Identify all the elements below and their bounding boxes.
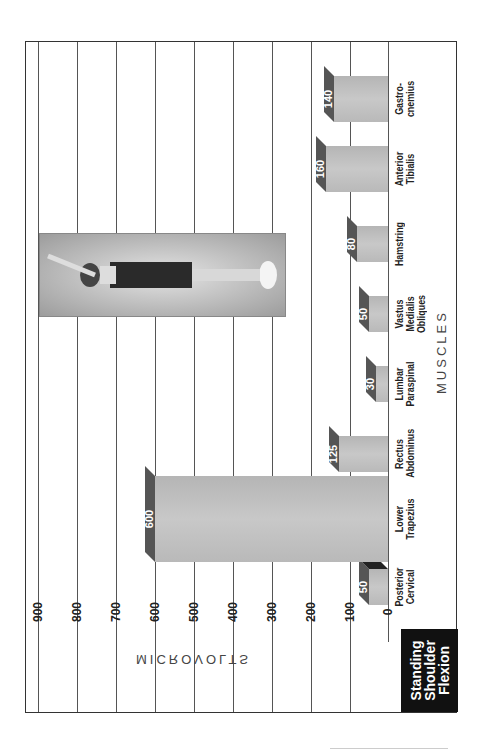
bar-value: 80 [345,226,357,262]
y-tick: 600 [148,592,162,632]
bar-anterior-tibialis: 160 [326,146,388,192]
title-line: Shoulder [423,640,437,701]
y-tick: 400 [226,592,240,632]
label-line: Obliques [416,292,427,336]
label-line: Cervical [405,566,416,609]
category-label: LumbarParaspinal [394,360,416,408]
y-axis-label: MICROVOLTS [136,652,251,667]
bar-value: 50 [357,296,369,332]
bar-value: 30 [364,366,376,402]
category-label: Gastro-cnemius [394,78,416,121]
label-line: Tibialis [405,148,416,191]
category-label: AnteriorTibialis [394,148,416,191]
bar-value: 160 [314,146,326,192]
bar-lumbar-paraspinal: 30 [376,366,388,402]
category-label: RectusAbdominus [394,430,416,478]
label-line: cnemius [405,78,416,121]
exercise-photo [39,233,286,317]
title-line: Standing [409,641,423,701]
y-tick: 800 [70,592,84,632]
bar-rectus-abdominus: 125 [339,436,388,472]
category-label: LowerTrapezius [394,498,416,541]
bar-value: 140 [322,76,334,122]
bar-gastrocnemius: 140 [334,76,388,122]
y-tick: 200 [304,592,318,632]
label-line: Hamstring [394,220,405,268]
x-axis-label: MUSCLES [434,310,449,394]
y-tick: 300 [265,592,279,632]
y-tick: 900 [31,592,45,632]
chart-frame: 900 800 700 600 500 400 300 200 100 0 MI… [25,41,457,713]
category-label: PosteriorCervical [394,566,416,609]
y-tick: 700 [109,592,123,632]
category-label: VastusMedialisObliques [394,292,427,336]
gridline-0 [388,42,389,642]
person-standing-icon [40,234,285,316]
bar-value: 50 [357,569,369,605]
chart-title: Standing Shoulder Flexion [401,629,458,712]
label-line: Abdominus [405,430,416,478]
title-line: Flexion [437,646,451,695]
scan-line [330,748,448,749]
y-tick: 100 [343,592,357,632]
label-line: Paraspinal [405,360,416,408]
bar-posterior-cervical: 50 [369,569,388,605]
bar-value: 600 [143,476,155,562]
bar-vastus-medialis-obliques: 50 [369,296,388,332]
bar-lower-trapezius: 600 [155,476,388,562]
label-line: Trapezius [405,498,416,541]
bar-hamstring: 80 [357,226,388,262]
bar-value: 125 [327,436,339,472]
category-label: Hamstring [394,220,405,268]
y-tick: 500 [187,592,201,632]
